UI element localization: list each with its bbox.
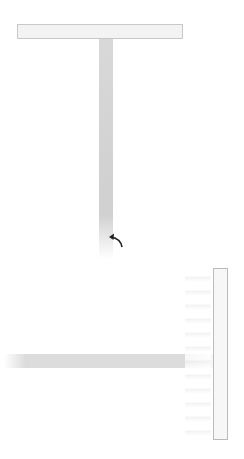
summed-grid xyxy=(17,268,181,440)
side-projection-rays xyxy=(185,268,211,438)
projection-row xyxy=(17,24,183,39)
side-projection-column xyxy=(213,268,228,440)
backprojection-grid xyxy=(17,66,181,228)
curved-arrow-icon xyxy=(108,232,124,248)
